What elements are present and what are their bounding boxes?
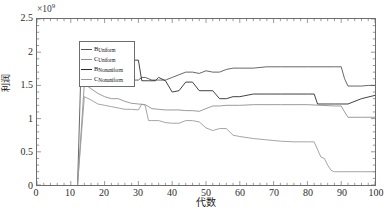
series-line-b-nonuniform — [105, 49, 375, 104]
y-tick-label: 2.5 — [3, 13, 33, 23]
x-tick-label: 100 — [369, 188, 384, 198]
x-tick-label: 60 — [235, 188, 245, 198]
series-line-c-nonuniform — [78, 97, 375, 185]
y-axis-exponent: ×109 — [37, 3, 55, 15]
legend-line-swatch — [81, 69, 92, 70]
legend-item-c-nonuniform: CNonuniform — [81, 74, 132, 84]
plot-area: BUniformCUniformBNonuniformCNonuniform — [36, 18, 376, 186]
y-tick-label: 1 — [3, 114, 33, 124]
y-tick-label: 0 — [3, 181, 33, 191]
y-axis-exponent-base: ×10 — [37, 4, 52, 14]
legend-item-c-uniform: CUniform — [81, 54, 132, 64]
x-tick-label: 40 — [167, 188, 177, 198]
x-axis-title: 代数 — [36, 198, 376, 208]
x-tick-label: 0 — [34, 188, 39, 198]
legend-label: CNonuniform — [94, 76, 123, 83]
legend-line-swatch — [81, 79, 92, 80]
legend-label: BUniform — [94, 46, 115, 53]
x-tick-label: 90 — [337, 188, 347, 198]
legend-item-b-uniform: BUniform — [81, 44, 132, 54]
legend-item-b-nonuniform: BNonuniform — [81, 64, 132, 74]
x-tick-label: 30 — [133, 188, 143, 198]
x-tick-label: 70 — [269, 188, 279, 198]
legend-line-swatch — [81, 49, 92, 50]
legend-line-swatch — [81, 59, 92, 60]
y-axis-title: 利润 — [2, 74, 11, 92]
x-tick-label: 80 — [303, 188, 313, 198]
x-tick-label: 20 — [99, 188, 109, 198]
legend-label: CUniform — [94, 56, 115, 63]
legend-label: BNonuniform — [94, 66, 123, 73]
legend: BUniformCUniformBNonuniformCNonuniform — [79, 41, 135, 87]
y-axis-exponent-power: 9 — [52, 2, 56, 10]
y-tick-label: 2 — [3, 47, 33, 57]
y-tick-label: 0.5 — [3, 147, 33, 157]
chart-figure: ×109 00.511.522.5 利润 BUniformCUniformBNo… — [0, 0, 390, 214]
y-axis-tick-labels: 00.511.522.5 — [0, 18, 33, 186]
x-tick-label: 10 — [65, 188, 75, 198]
